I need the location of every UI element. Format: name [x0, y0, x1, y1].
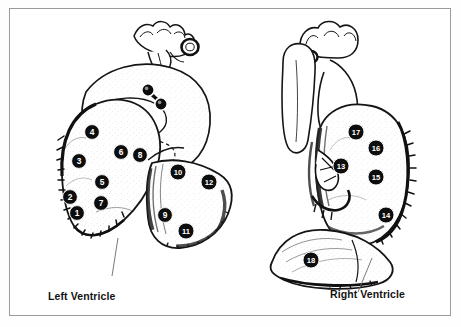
segment-marker-label-13: 13 — [337, 162, 345, 171]
segment-marker-label-17: 17 — [352, 128, 360, 137]
segment-marker-label-12: 12 — [205, 178, 213, 187]
ostium-upper-highlight — [145, 87, 149, 91]
segment-marker-9: 9 — [158, 208, 173, 223]
segment-marker-1: 1 — [70, 206, 85, 221]
segment-marker-label-5: 5 — [100, 177, 105, 187]
left-heart-drawing — [55, 22, 239, 276]
segment-marker-16: 16 — [368, 140, 384, 156]
segment-marker-7: 7 — [94, 196, 109, 211]
segment-marker-3: 3 — [72, 154, 87, 169]
ostium-lower-marker — [155, 98, 167, 110]
segment-marker-12: 12 — [201, 174, 217, 190]
heart-illustration: 123456789101112131415161718 — [0, 0, 461, 327]
segment-marker-11: 11 — [178, 223, 194, 239]
segment-marker-6: 6 — [114, 145, 129, 160]
segment-marker-label-18: 18 — [307, 256, 315, 265]
segment-marker-label-3: 3 — [77, 156, 82, 166]
left-caption-leader — [112, 238, 118, 276]
segment-marker-15: 15 — [368, 169, 384, 185]
segment-marker-2: 2 — [63, 190, 78, 205]
segment-marker-5: 5 — [95, 175, 110, 190]
caption-right-ventricle: Right Ventricle — [330, 288, 405, 300]
ventricle-figure: 123456789101112131415161718 Left Ventric… — [0, 0, 461, 327]
segment-marker-label-6: 6 — [119, 147, 124, 157]
segment-marker-label-7: 7 — [99, 198, 104, 208]
segment-marker-label-10: 10 — [174, 168, 182, 177]
segment-marker-label-11: 11 — [182, 227, 191, 236]
segment-marker-18: 18 — [303, 252, 319, 268]
segment-marker-label-8: 8 — [138, 150, 143, 160]
segment-marker-10: 10 — [170, 164, 186, 180]
segment-marker-4: 4 — [85, 125, 100, 140]
segment-marker-label-15: 15 — [372, 173, 381, 182]
segment-marker-13: 13 — [333, 158, 349, 174]
segment-marker-8: 8 — [133, 148, 148, 163]
segment-marker-label-9: 9 — [163, 210, 168, 220]
segment-marker-label-1: 1 — [75, 208, 80, 218]
segment-marker-label-2: 2 — [68, 192, 73, 202]
segment-marker-14: 14 — [378, 207, 394, 223]
segment-marker-label-4: 4 — [90, 127, 95, 137]
caption-left-ventricle: Left Ventricle — [48, 290, 115, 302]
ostium-upper-marker — [142, 84, 154, 96]
segment-marker-17: 17 — [348, 124, 364, 140]
ostium-lower-highlight — [158, 101, 162, 105]
segment-marker-label-16: 16 — [372, 144, 380, 153]
segment-marker-label-14: 14 — [382, 211, 391, 220]
